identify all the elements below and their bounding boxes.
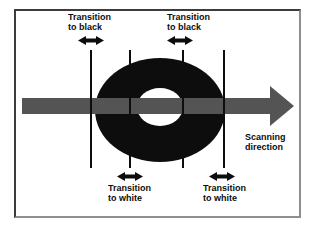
diagram-frame: Transition to black Transition to black … — [14, 9, 301, 218]
double-arrow-icon-bottom-right — [209, 171, 235, 182]
scan-arrow-head-icon — [270, 86, 294, 126]
transition-label-bottom-left: Transition to white — [108, 183, 160, 203]
transition-line-outer-left — [90, 50, 92, 168]
double-arrow-icon-top-right — [167, 35, 193, 46]
scan-arrow-shaft — [22, 98, 270, 114]
transition-label-top-right: Transition to black — [167, 12, 219, 32]
transition-line-inner-right — [182, 50, 184, 168]
transition-label-top-left: Transition to black — [68, 12, 120, 32]
double-arrow-icon-top-left — [78, 35, 104, 46]
scanning-direction-label: Scanning direction — [245, 132, 297, 152]
transition-line-inner-left — [129, 50, 131, 168]
transition-line-outer-right — [223, 50, 225, 168]
transition-label-bottom-right: Transition to white — [203, 183, 255, 203]
double-arrow-icon-bottom-left — [117, 171, 143, 182]
